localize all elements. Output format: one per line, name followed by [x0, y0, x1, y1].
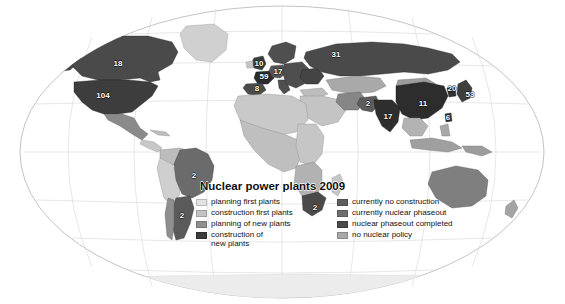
legend-swatch [337, 221, 348, 228]
legend-label: currently no construction [352, 197, 439, 207]
country-philippines [440, 124, 450, 136]
legend-item: construction of new plants [196, 230, 333, 249]
legend-swatch [196, 232, 207, 239]
world-map-svg [0, 0, 565, 304]
legend-item: planning first plants [196, 197, 333, 207]
legend-column-right: currently no constructioncurrently nucle… [337, 197, 486, 240]
legend-label: planning of new plants [211, 219, 291, 229]
legend-label: currently nuclear phaseout [352, 208, 446, 218]
legend-swatch [196, 199, 207, 206]
legend: Nuclear power plants 2009 planning first… [196, 180, 486, 249]
legend-swatch [337, 199, 348, 206]
legend-label: construction of new plants [211, 230, 263, 249]
legend-swatch [196, 221, 207, 228]
legend-label: construction first plants [211, 208, 293, 218]
legend-label: no nuclear policy [352, 230, 412, 240]
legend-columns: planning first plantsconstruction first … [196, 197, 486, 249]
legend-item: construction first plants [196, 208, 333, 218]
legend-label: nuclear phaseout completed [352, 219, 453, 229]
legend-item: currently nuclear phaseout [337, 208, 486, 218]
legend-item: planning of new plants [196, 219, 333, 229]
country-ireland [246, 61, 253, 68]
legend-swatch [337, 232, 348, 239]
legend-item: no nuclear policy [337, 230, 486, 240]
legend-item: currently no construction [337, 197, 486, 207]
nuclear-power-plants-map-figure: 181041017598312171120536222 Nuclear powe… [0, 0, 565, 304]
country-taiwan [445, 113, 452, 122]
legend-swatch [337, 210, 348, 217]
legend-column-left: planning first plantsconstruction first … [196, 197, 333, 249]
legend-label: planning first plants [211, 197, 280, 207]
legend-swatch [196, 210, 207, 217]
legend-item: nuclear phaseout completed [337, 219, 486, 229]
legend-title: Nuclear power plants 2009 [200, 180, 486, 193]
world-map: 181041017598312171120536222 [0, 0, 565, 304]
